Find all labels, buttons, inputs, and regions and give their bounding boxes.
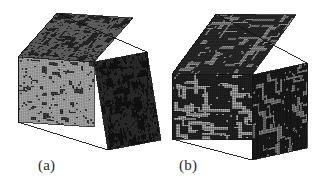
figure-container: (a) (b) bbox=[0, 0, 324, 184]
front-left-face-lattice bbox=[172, 74, 252, 140]
front-left-face bbox=[18, 57, 94, 127]
right-face bbox=[94, 52, 161, 150]
front-left-face bbox=[172, 74, 252, 140]
top-face bbox=[172, 14, 296, 75]
right-face bbox=[252, 63, 307, 160]
panel-caption-b: (b) bbox=[179, 157, 197, 174]
right-face-lattice bbox=[252, 63, 307, 160]
panel-caption-a: (a) bbox=[38, 157, 55, 174]
cube-panel-a bbox=[18, 13, 161, 150]
cube-panel-b bbox=[172, 14, 307, 160]
